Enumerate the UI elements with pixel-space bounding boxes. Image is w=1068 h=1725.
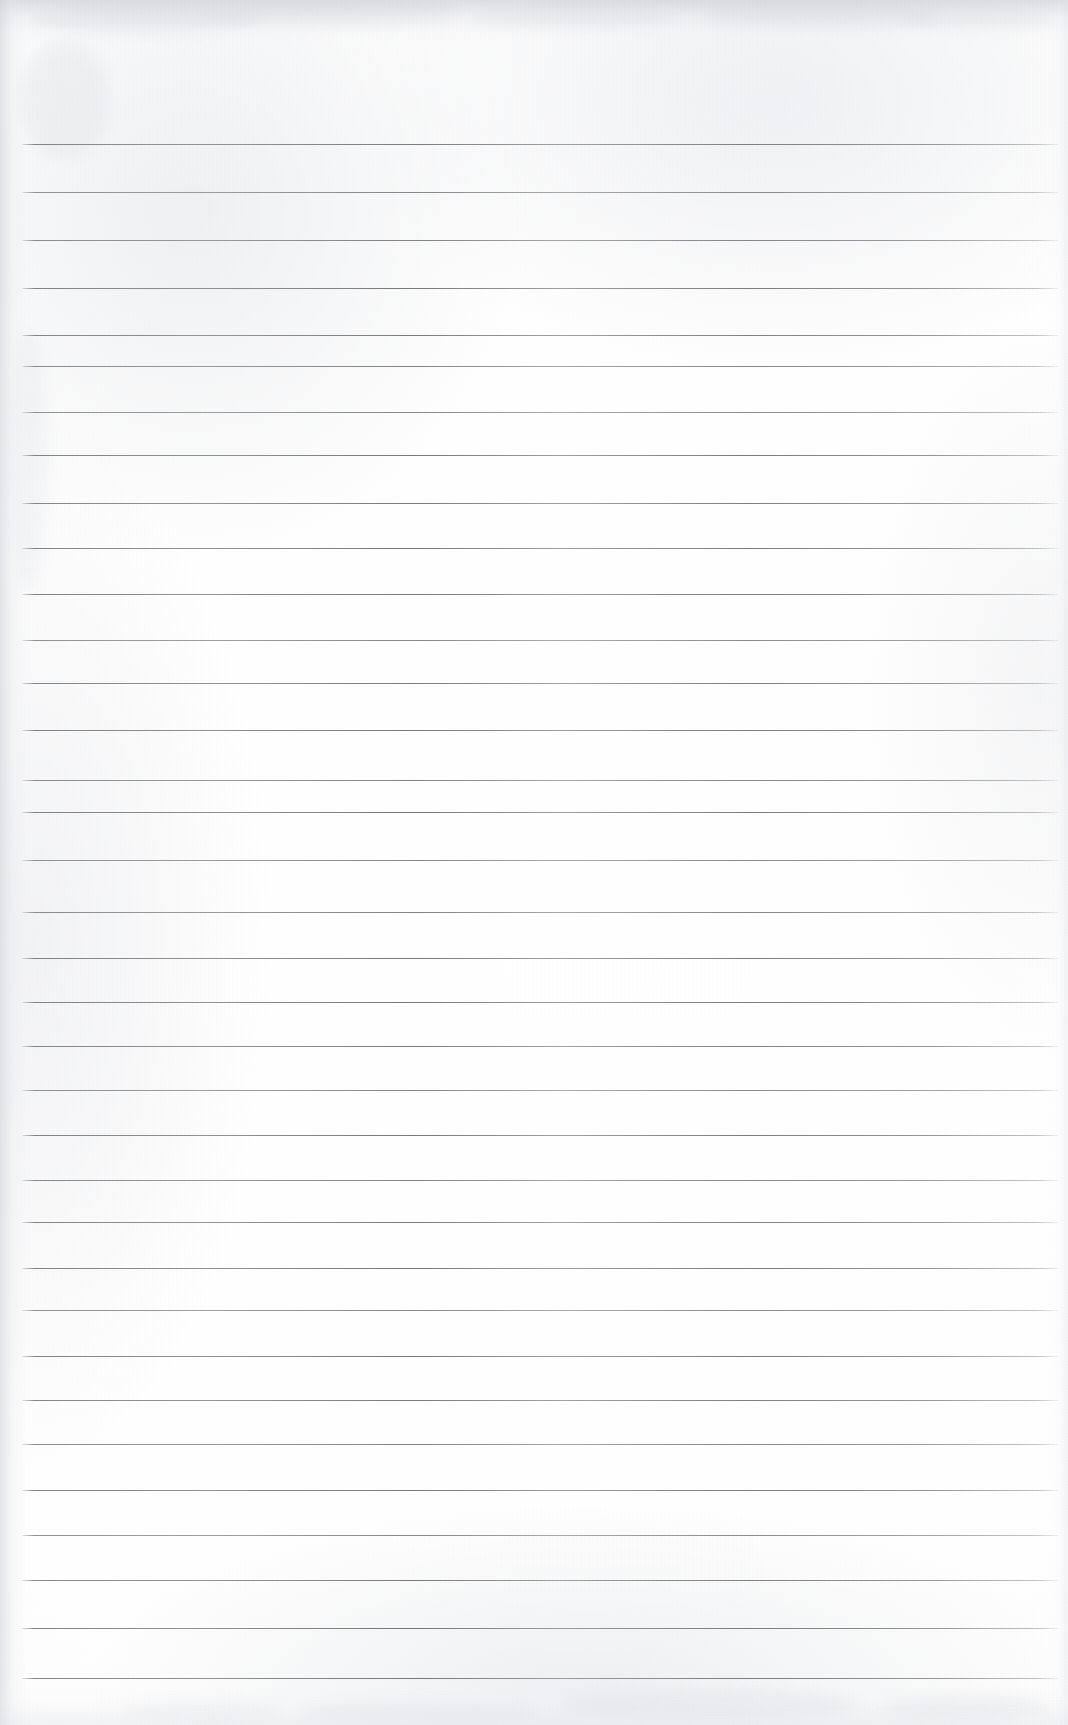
ruling-line	[22, 812, 1058, 813]
ruling-line	[22, 192, 1058, 193]
ruling-line	[22, 144, 1058, 145]
ruling-line	[22, 288, 1058, 289]
ruling-line	[22, 240, 1058, 241]
ruling-line	[22, 1356, 1058, 1357]
scan-edge-shadow-right	[1050, 0, 1068, 1725]
ruling-line	[22, 455, 1058, 456]
ruling-line	[22, 412, 1058, 413]
ruling-line	[22, 1268, 1058, 1269]
scan-edge-shadow-left	[0, 0, 26, 1725]
ruling-line	[22, 1400, 1058, 1401]
ruling-line	[22, 1222, 1058, 1223]
ruling-line	[22, 1046, 1058, 1047]
ruling-line	[22, 1580, 1058, 1581]
ruling-line	[22, 503, 1058, 504]
ruling-line	[22, 1002, 1058, 1003]
scanned-page: Blank Ruled Notebook Page	[0, 0, 1068, 1725]
ruling-line	[22, 1628, 1058, 1629]
ruling-lines-layer	[0, 0, 1068, 1725]
ruling-line	[22, 860, 1058, 861]
ruling-line	[22, 1490, 1058, 1491]
ruling-line	[22, 730, 1058, 731]
ruling-line	[22, 1444, 1058, 1445]
ruling-line	[22, 548, 1058, 549]
ruling-line	[22, 640, 1058, 641]
ruling-line	[22, 594, 1058, 595]
ruling-line	[22, 912, 1058, 913]
ruling-line	[22, 1310, 1058, 1311]
ruling-line	[22, 1180, 1058, 1181]
ruling-line	[22, 335, 1058, 336]
ruling-line	[22, 780, 1058, 781]
ruling-line	[22, 1535, 1058, 1536]
ruling-line	[22, 683, 1058, 684]
ruling-line	[22, 1135, 1058, 1136]
ruling-line	[22, 1678, 1058, 1679]
ruling-line	[22, 1090, 1058, 1091]
scan-edge-shadow-top	[0, 0, 1068, 46]
ruling-line	[22, 366, 1058, 367]
scan-edge-shadow-bottom	[0, 1685, 1068, 1725]
ruling-line	[22, 958, 1058, 959]
